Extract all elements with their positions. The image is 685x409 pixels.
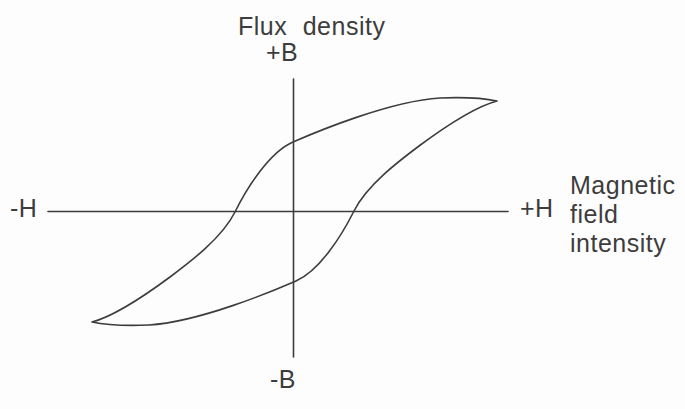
y-axis-negative-label: -B	[270, 366, 296, 393]
x-axis-negative-label: -H	[10, 195, 37, 222]
y-axis-title: Flux density	[238, 13, 385, 40]
y-axis-positive-label: +B	[266, 39, 298, 66]
x-axis-title-line-3: intensity	[570, 229, 675, 258]
hysteresis-diagram: Flux density +B -H +H Magnetic field int…	[0, 0, 685, 409]
x-axis-title: Magnetic field intensity	[570, 171, 675, 258]
x-axis-positive-label: +H	[520, 195, 554, 222]
x-axis-title-line-1: Magnetic	[570, 171, 675, 200]
x-axis-title-line-2: field	[570, 200, 675, 229]
